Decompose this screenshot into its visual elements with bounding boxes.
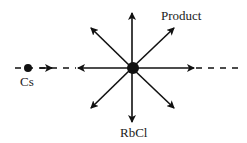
arrow-southeast-icon: [132, 68, 174, 108]
cs-beam: [15, 64, 76, 72]
cs-particle-dot: [24, 64, 32, 72]
cs-label: Cs: [20, 75, 34, 88]
collision-center-dot: [127, 62, 139, 74]
product-label: Product: [161, 9, 201, 22]
arrow-southwest-icon: [91, 68, 132, 108]
rbcl-label: RbCl: [120, 126, 147, 139]
arrow-northeast-icon: [132, 28, 174, 68]
arrow-northwest-icon: [91, 28, 132, 68]
scattering-diagram: [0, 0, 247, 143]
